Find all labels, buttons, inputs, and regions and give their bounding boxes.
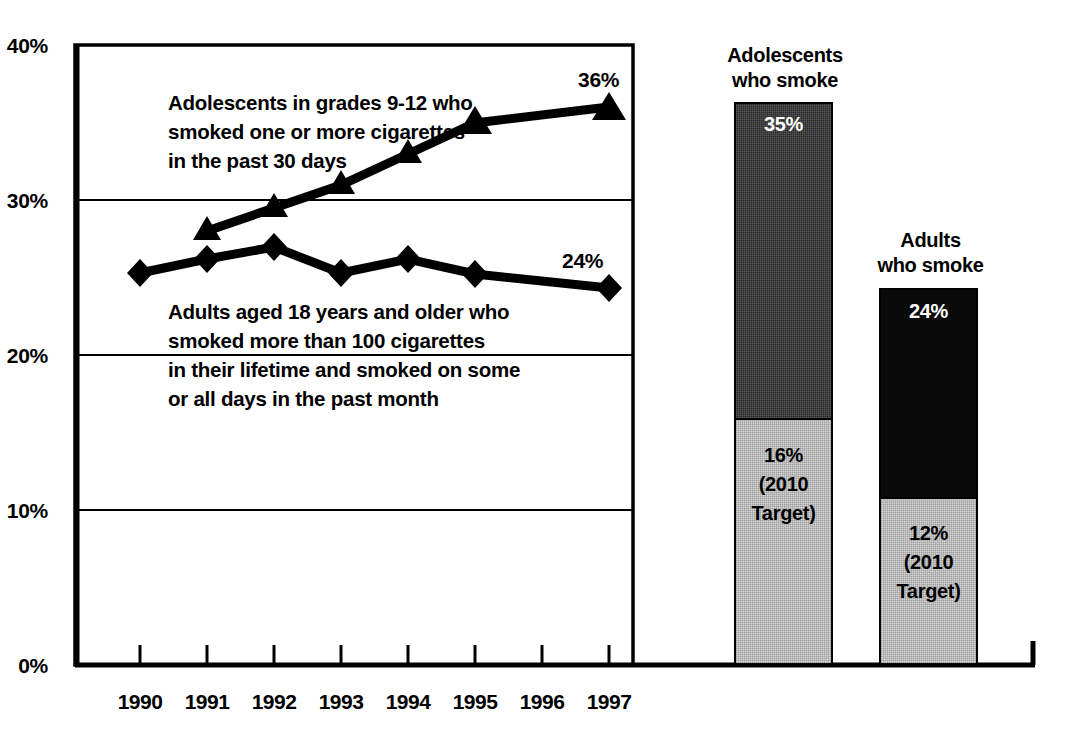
x-axis-ticks (140, 645, 609, 665)
adults-annotation: Adults aged 18 years and older who smoke… (168, 297, 520, 413)
bar-adults-caption: Adults who smoke (868, 228, 993, 278)
bar-adolescents-current-label: 35% (734, 110, 833, 139)
bar-adults-current-label: 24% (879, 297, 978, 326)
bar-adults-target-label: 12% (2010 Target) (879, 519, 978, 606)
chart-figure: 40% 30% 20% 10% 0% 1990 1991 1992 1993 1… (0, 0, 1078, 754)
bar-adolescents-caption: Adolescents who smoke (720, 43, 850, 93)
bar-adolescents-target-label: 16% (2010 Target) (734, 441, 833, 528)
adolescents-end-label: 36% (578, 68, 619, 92)
adults-end-label: 24% (562, 249, 603, 273)
bar-adolescents-current-segment (734, 102, 833, 420)
series-adults (127, 233, 622, 302)
adolescents-annotation: Adolescents in grades 9-12 who smoked on… (168, 88, 473, 175)
